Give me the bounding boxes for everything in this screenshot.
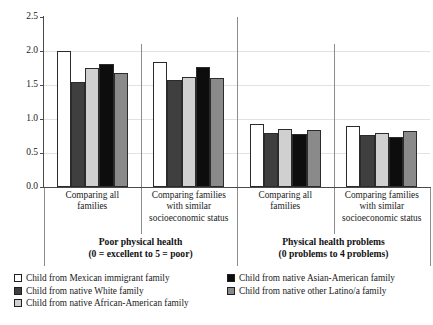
- y-axis-tick-mark: [40, 51, 44, 52]
- bar: [278, 129, 292, 187]
- panel-subtitle-text: (0 problems to 4 problems): [237, 248, 430, 260]
- category-label-line: families: [44, 201, 141, 212]
- legend-swatch: [14, 299, 22, 307]
- legend-column-left: Child from Mexican immigrant familyChild…: [14, 272, 189, 310]
- category-label-line: families: [237, 201, 334, 212]
- bar: [114, 73, 128, 187]
- legend-swatch: [227, 287, 235, 295]
- category-label-line: Comparing all: [237, 190, 334, 201]
- y-axis-tick-label: 1.5: [0, 80, 38, 90]
- bar: [264, 133, 278, 187]
- panel-divider: [430, 188, 431, 266]
- legend-label: Child from native Asian-American family: [239, 273, 395, 283]
- plot-area: [44, 17, 430, 187]
- group-divider: [334, 44, 335, 187]
- chart-legend: Child from Mexican immigrant familyChild…: [14, 272, 424, 318]
- panel-title: Poor physical health(0 = excellent to 5 …: [44, 236, 237, 260]
- panel-divider: [44, 188, 45, 266]
- y-axis-tick-mark: [40, 17, 44, 18]
- panel-title: Physical health problems(0 problems to 4…: [237, 236, 430, 260]
- category-label: Comparing allfamilies: [237, 190, 334, 213]
- bar: [360, 135, 374, 187]
- bar: [85, 68, 99, 187]
- legend-swatch: [227, 274, 235, 282]
- category-label: Comparing familieswith similarsocioecono…: [141, 190, 238, 224]
- y-axis-tick-label: 2.5: [0, 12, 38, 22]
- bar: [403, 131, 417, 187]
- y-axis-tick-label: 2.0: [0, 46, 38, 56]
- category-divider: [334, 188, 335, 234]
- y-axis-tick-label: 0.0: [0, 182, 38, 192]
- legend-column-right: Child from native Asian-American familyC…: [227, 272, 395, 297]
- legend-item: Child from Mexican immigrant family: [14, 272, 189, 285]
- legend-label: Child from Mexican immigrant family: [26, 273, 170, 283]
- bar: [389, 137, 403, 187]
- category-label-line: socioeconomic status: [141, 213, 238, 224]
- category-label-line: with similar: [141, 201, 238, 212]
- legend-label: Child from native African-American famil…: [26, 298, 189, 308]
- panel-title-text: Physical health problems: [237, 236, 430, 248]
- bar: [99, 64, 113, 187]
- category-label: Comparing allfamilies: [44, 190, 141, 213]
- bar: [153, 62, 167, 187]
- bar: [182, 77, 196, 187]
- category-divider: [141, 188, 142, 234]
- y-axis-tick-label: 0.5: [0, 148, 38, 158]
- y-axis-tick-mark: [40, 153, 44, 154]
- category-label-line: Comparing all: [44, 190, 141, 201]
- bar: [375, 133, 389, 187]
- bar: [57, 51, 71, 187]
- category-label-line: Comparing families: [334, 190, 431, 201]
- legend-item: Child from native African-American famil…: [14, 297, 189, 310]
- legend-label: Child from native other Latino/a family: [239, 286, 386, 296]
- panel-title-text: Poor physical health: [44, 236, 237, 248]
- category-label-line: socioeconomic status: [334, 213, 431, 224]
- legend-swatch: [14, 287, 22, 295]
- panel-divider: [237, 188, 238, 266]
- y-axis-tick-mark: [40, 85, 44, 86]
- bar-chart: 0.00.51.01.52.02.5 Comparing allfamilies…: [0, 0, 433, 325]
- bar: [292, 134, 306, 187]
- bar: [196, 67, 210, 187]
- panel-subtitle-text: (0 = excellent to 5 = poor): [44, 248, 237, 260]
- legend-swatch: [14, 274, 22, 282]
- bar: [250, 124, 264, 187]
- legend-item: Child from native Asian-American family: [227, 272, 395, 285]
- y-axis-tick-mark: [40, 119, 44, 120]
- group-divider: [237, 17, 238, 187]
- bar: [167, 80, 181, 187]
- bar: [71, 82, 85, 187]
- bar: [210, 78, 224, 187]
- category-label: Comparing familieswith similarsocioecono…: [334, 190, 431, 224]
- legend-item: Child from native White family: [14, 285, 189, 298]
- y-axis-tick-label: 1.0: [0, 114, 38, 124]
- bar: [307, 130, 321, 187]
- legend-label: Child from native White family: [26, 286, 144, 296]
- bar: [346, 126, 360, 187]
- legend-item: Child from native other Latino/a family: [227, 285, 395, 298]
- category-label-line: Comparing families: [141, 190, 238, 201]
- category-label-line: with similar: [334, 201, 431, 212]
- group-divider: [141, 44, 142, 187]
